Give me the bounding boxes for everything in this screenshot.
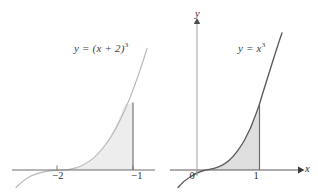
x-tick-label-zero: 0: [186, 170, 198, 181]
graph-canvas: [0, 0, 318, 196]
x-tick-label-neg-two: −2: [48, 170, 68, 181]
x-tick-label-one: 1: [250, 170, 262, 181]
x-axis-label: x: [305, 163, 310, 174]
left-shaded-region: [64, 103, 134, 170]
figure-container: y = (x + 2)3 y = x3 −2 −1 0 1 y x: [0, 0, 318, 196]
curve-label-right: y = x3: [238, 42, 265, 54]
curve-label-right-exponent: 3: [262, 41, 266, 49]
curve-label-right-text: y = x: [238, 42, 262, 54]
curve-label-left: y = (x + 2)3: [74, 42, 128, 54]
curve-label-left-text: y = (x + 2): [74, 42, 125, 54]
y-axis-label: y: [195, 8, 200, 19]
left-panel-group: [12, 49, 155, 188]
x-tick-label-neg-one: −1: [127, 170, 147, 181]
x-axis-arrowhead: [298, 167, 305, 174]
curve-label-left-exponent: 3: [125, 41, 129, 49]
